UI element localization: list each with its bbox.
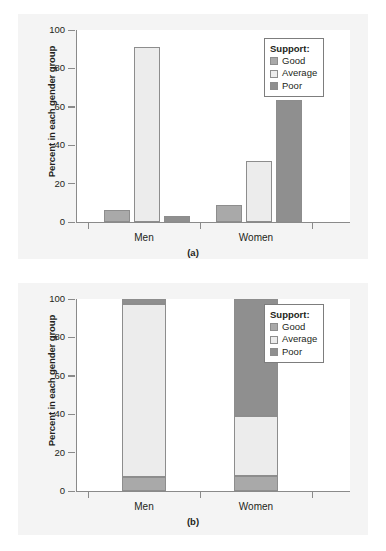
legend-swatch-poor-icon <box>270 82 278 90</box>
y-tick: 80 <box>18 337 76 347</box>
y-axis-line <box>76 30 77 222</box>
legend-swatch-average-icon <box>270 336 278 344</box>
x-tick-mark <box>200 223 201 229</box>
y-tick: 20 <box>18 453 76 463</box>
legend-a: Support: Good Average Poor <box>264 38 324 97</box>
legend-item-poor[interactable]: Poor <box>270 81 317 92</box>
x-axis-label-men: Men <box>134 232 153 243</box>
y-tick: 40 <box>18 414 76 424</box>
legend-label-average: Average <box>282 334 317 345</box>
y-tick-mark <box>68 106 75 107</box>
y-tick-mark <box>68 299 75 300</box>
legend-b: Support: Good Average Poor <box>264 304 324 363</box>
y-tick-mark <box>68 183 75 184</box>
panel-caption-b: (b) <box>18 516 368 527</box>
x-tick-mark <box>88 492 89 498</box>
chart-panel-b: Percent in each gender group 02040608010… <box>18 283 368 535</box>
legend-label-good: Good <box>282 56 305 67</box>
y-tick-label: 80 <box>54 331 65 342</box>
bar-women-good <box>234 476 278 491</box>
y-tick: 60 <box>18 376 76 386</box>
bar-men-average <box>134 47 160 222</box>
x-axis-label-men: Men <box>134 501 153 512</box>
panel-caption-a: (a) <box>18 247 368 258</box>
legend-label-poor: Poor <box>282 81 302 92</box>
bar-men-average <box>122 304 166 477</box>
chart-panel-a: Percent in each gender group 02040608010… <box>18 14 368 259</box>
y-tick-mark <box>68 30 75 31</box>
x-axis-line <box>76 491 350 492</box>
x-tick-mark <box>88 223 89 229</box>
y-tick-mark <box>68 491 75 492</box>
y-tick-label: 40 <box>54 139 65 150</box>
x-tick-mark <box>312 492 313 498</box>
y-tick-label: 40 <box>54 408 65 419</box>
legend-label-poor: Poor <box>282 347 302 358</box>
y-tick: 60 <box>18 107 76 117</box>
legend-title: Support: <box>270 43 317 54</box>
y-tick-label: 20 <box>54 447 65 458</box>
bar-women-good <box>216 205 242 222</box>
y-axis-line <box>76 299 77 491</box>
legend-swatch-average-icon <box>270 70 278 78</box>
y-tick: 0 <box>18 222 76 232</box>
y-tick-mark <box>68 452 75 453</box>
legend-item-poor[interactable]: Poor <box>270 347 317 358</box>
legend-title: Support: <box>270 309 317 320</box>
bar-women-average <box>246 161 272 222</box>
y-tick-label: 60 <box>54 370 65 381</box>
x-axis-label-women: Women <box>239 232 273 243</box>
bar-women-poor <box>276 100 302 222</box>
y-tick: 40 <box>18 145 76 155</box>
legend-swatch-poor-icon <box>270 348 278 356</box>
x-tick-mark <box>200 492 201 498</box>
bar-men-poor <box>164 216 190 222</box>
y-tick-mark <box>68 375 75 376</box>
y-tick-label: 0 <box>60 216 65 227</box>
bar-men-good <box>104 210 130 222</box>
bar-men-poor <box>122 299 166 304</box>
y-tick: 80 <box>18 68 76 78</box>
figure-container: Percent in each gender group 02040608010… <box>0 0 386 551</box>
legend-item-average[interactable]: Average <box>270 334 317 345</box>
y-tick-label: 20 <box>54 178 65 189</box>
y-tick: 20 <box>18 184 76 194</box>
x-axis-label-women: Women <box>239 501 273 512</box>
y-tick-label: 0 <box>60 485 65 496</box>
bar-men-good <box>122 477 166 491</box>
legend-swatch-good-icon <box>270 323 278 331</box>
y-tick-mark <box>68 337 75 338</box>
legend-label-average: Average <box>282 68 317 79</box>
x-axis-line <box>76 222 350 223</box>
y-tick-mark <box>68 222 75 223</box>
bar-women-average <box>234 416 278 476</box>
y-tick: 100 <box>18 299 76 309</box>
y-tick-label: 80 <box>54 62 65 73</box>
x-tick-mark <box>312 223 313 229</box>
legend-label-good: Good <box>282 322 305 333</box>
legend-item-good[interactable]: Good <box>270 322 317 333</box>
y-tick-label: 60 <box>54 101 65 112</box>
y-tick: 0 <box>18 491 76 501</box>
legend-swatch-good-icon <box>270 57 278 65</box>
y-tick-mark <box>68 414 75 415</box>
y-tick: 100 <box>18 30 76 40</box>
y-tick-mark <box>68 145 75 146</box>
y-tick-mark <box>68 68 75 69</box>
y-tick-label: 100 <box>49 24 65 35</box>
y-tick-label: 100 <box>49 293 65 304</box>
legend-item-average[interactable]: Average <box>270 68 317 79</box>
legend-item-good[interactable]: Good <box>270 56 317 67</box>
